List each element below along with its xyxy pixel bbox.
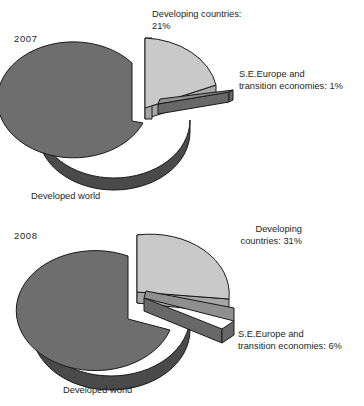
callout-se-europe-2008-line1: S.E.Europe and xyxy=(238,328,342,340)
callout-developing-2007-line1: Developing countries: xyxy=(152,8,241,20)
slice-developed-world-top-2007 xyxy=(0,42,143,158)
callout-developing-2008-line1: Developing xyxy=(196,223,302,235)
callout-se-europe-2007-line2: transition economies: 1% xyxy=(239,80,343,92)
label-developed-world-2008: Developed world xyxy=(63,385,132,395)
callout-developing-2008: Developing countries: 31% xyxy=(196,223,302,248)
callout-se-europe-2007: S.E.Europe and transition economies: 1% xyxy=(239,68,343,93)
chart-2007: 2007 Developing countries: 21% S.E.Europ… xyxy=(0,0,364,203)
chart-2008: 2008 Developing countries: 31% S.E.Europ… xyxy=(0,203,364,406)
label-developed-world-2007: Developed world xyxy=(31,191,100,201)
year-label-2007: 2007 xyxy=(14,33,38,44)
pie-2008-graphic xyxy=(0,203,364,406)
pie-chart-figure: 2007 Developing countries: 21% S.E.Europ… xyxy=(0,0,364,406)
callout-developing-2007: Developing countries: 21% xyxy=(152,8,241,33)
callout-se-europe-2008: S.E.Europe and transition economies: 6% xyxy=(238,328,342,353)
slice-se-europe-end-2008 xyxy=(222,321,234,343)
callout-developing-2008-line2: countries: 31% xyxy=(196,235,302,247)
callout-se-europe-2008-line2: transition economies: 6% xyxy=(238,340,342,352)
callout-developing-2007-line2: 21% xyxy=(152,20,241,32)
callout-se-europe-2007-line1: S.E.Europe and xyxy=(239,68,343,80)
year-label-2008: 2008 xyxy=(14,230,38,241)
